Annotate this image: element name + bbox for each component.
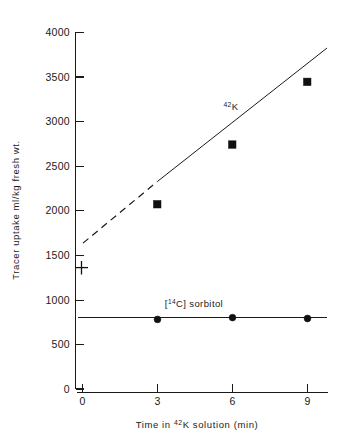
x-tick-label-9: 9 [304, 395, 310, 407]
sorbitol-label-superscript: 14 [168, 298, 176, 305]
k42-series-label: 42K [223, 101, 238, 113]
x-tick-label-3: 3 [154, 395, 160, 407]
sorbitol-label-element: C [176, 298, 183, 309]
k42-point-9min [304, 78, 312, 86]
y-tick-label-3500: 3500 [45, 71, 70, 83]
sorbitol-point-6min [229, 314, 236, 321]
x-tick-label-0: 0 [79, 395, 85, 407]
x-tick-label-6: 6 [229, 395, 235, 407]
x-axis-title-suffix: solution (min) [190, 419, 259, 430]
y-tick-label-500: 500 [52, 338, 70, 350]
x-axis-group: 0 3 6 9 [77, 384, 328, 407]
k42-label-element: K [232, 101, 239, 112]
x-axis-title-prefix: Time in [136, 419, 174, 430]
k42-fit-line [158, 48, 328, 181]
y-tick-label-3000: 3000 [45, 115, 70, 127]
k42-label-superscript: 42 [223, 101, 231, 108]
series-sorbitol: [14C] sorbitol [78, 298, 327, 323]
y-axis-group: 4000 3500 3000 2500 2000 1500 1000 500 0 [45, 26, 84, 395]
sorbitol-point-3min [154, 316, 161, 323]
series-k42: 42K [75, 48, 327, 275]
y-tick-label-2000: 2000 [45, 204, 70, 216]
y-tick-label-1500: 1500 [45, 249, 70, 261]
k42-point-6min [229, 141, 237, 149]
y-tick-label-0: 0 [64, 383, 70, 395]
chart-plot-area: 4000 3500 3000 2500 2000 1500 1000 500 0… [0, 0, 343, 438]
y-tick-label-1000: 1000 [45, 294, 70, 306]
y-axis-title: Tracer uptake ml/kg fresh wt. [10, 140, 21, 280]
k42-extrapolation-dashed [83, 181, 158, 243]
y-tick-label-4000: 4000 [45, 26, 70, 38]
y-tick-label-2500: 2500 [45, 160, 70, 172]
x-axis-title-superscript: 42 [174, 419, 183, 426]
chart-figure: 4000 3500 3000 2500 2000 1500 1000 500 0… [0, 0, 343, 438]
k42-intercept-cross-marker [75, 261, 88, 275]
sorbitol-point-9min [304, 315, 311, 322]
k42-point-3min [154, 201, 162, 209]
sorbitol-label-suffix: sorbitol [186, 298, 223, 309]
x-axis-title: Time in 42K solution (min) [136, 419, 259, 431]
sorbitol-series-label: [14C] sorbitol [165, 298, 223, 310]
